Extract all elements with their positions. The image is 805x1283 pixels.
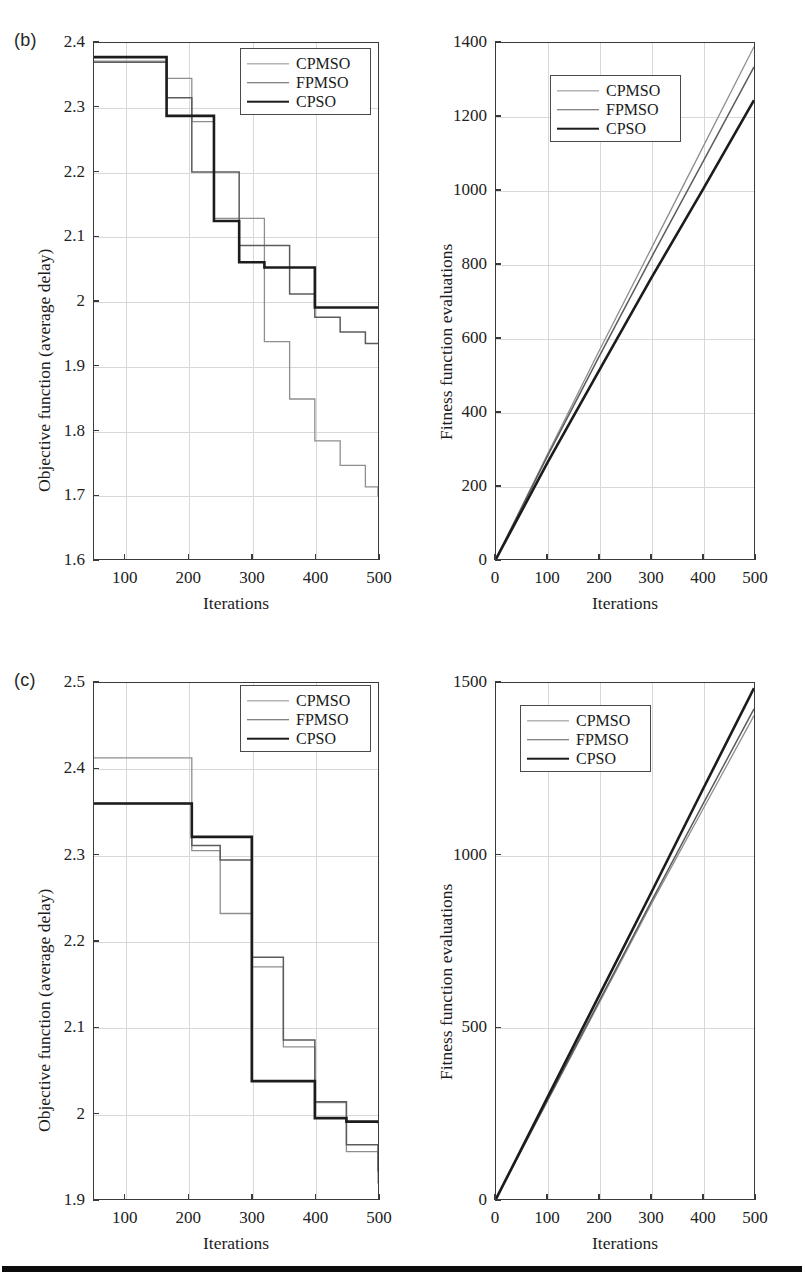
x-tick-label: 400 bbox=[303, 568, 329, 588]
y-tick-label: 2.3 bbox=[31, 845, 85, 865]
legend-item-fpmso[interactable]: FPMSO bbox=[247, 73, 362, 92]
y-tick-mark bbox=[93, 365, 99, 366]
legend-b-right[interactable]: CPMSOFPMSOCPSO bbox=[550, 75, 681, 142]
legend-line-swatch-icon bbox=[247, 695, 289, 707]
legend-label: FPMSO bbox=[576, 732, 628, 748]
legend-line-swatch-icon bbox=[247, 96, 289, 108]
legend-label: CPSO bbox=[576, 751, 616, 767]
series-line-cpso bbox=[496, 100, 754, 559]
y-axis-label-c-right: Fitness function evaluations bbox=[436, 884, 457, 1080]
x-tick-mark bbox=[188, 1194, 189, 1200]
x-tick-label: 200 bbox=[586, 568, 612, 588]
y-tick-mark bbox=[93, 681, 99, 682]
x-tick-mark bbox=[124, 1194, 125, 1200]
legend-label: CPSO bbox=[296, 731, 336, 747]
series-line-fpmso bbox=[94, 803, 378, 1171]
x-tick-label: 300 bbox=[239, 568, 265, 588]
legend-line-swatch-icon bbox=[247, 77, 289, 89]
y-tick-mark bbox=[495, 189, 501, 190]
y-tick-label: 1.6 bbox=[31, 550, 85, 570]
legend-label: FPMSO bbox=[296, 75, 348, 91]
legend-label: CPMSO bbox=[606, 83, 660, 99]
x-axis-label-c-left: Iterations bbox=[203, 1233, 269, 1254]
y-tick-mark bbox=[93, 559, 99, 560]
page-bottom-rule bbox=[2, 1266, 802, 1272]
x-tick-label: 100 bbox=[534, 1208, 560, 1228]
x-tick-mark bbox=[251, 554, 252, 560]
legend-item-cpso[interactable]: CPSO bbox=[247, 92, 362, 111]
x-tick-label: 100 bbox=[534, 568, 560, 588]
y-axis-label-c-left: Objective function (average delay) bbox=[34, 889, 55, 1132]
legend-line-swatch-icon bbox=[247, 58, 289, 70]
y-tick-mark bbox=[93, 940, 99, 941]
y-tick-mark bbox=[93, 495, 99, 496]
legend-item-fpmso[interactable]: FPMSO bbox=[247, 710, 362, 729]
y-tick-mark bbox=[93, 1027, 99, 1028]
y-tick-label: 1200 bbox=[433, 106, 487, 126]
y-tick-mark bbox=[93, 300, 99, 301]
y-tick-label: 2.3 bbox=[31, 97, 85, 117]
y-tick-mark bbox=[93, 171, 99, 172]
legend-item-cpmso[interactable]: CPMSO bbox=[247, 691, 362, 710]
x-tick-label: 300 bbox=[638, 568, 664, 588]
y-tick-label: 0 bbox=[433, 1190, 487, 1210]
x-tick-mark bbox=[650, 554, 651, 560]
y-tick-mark bbox=[93, 1113, 99, 1114]
legend-b-left[interactable]: CPMSOFPMSOCPSO bbox=[240, 48, 371, 115]
x-tick-mark bbox=[188, 554, 189, 560]
series-line-cpmso bbox=[94, 61, 378, 496]
legend-label: FPMSO bbox=[296, 712, 348, 728]
y-tick-mark bbox=[495, 263, 501, 264]
x-tick-mark bbox=[315, 1194, 316, 1200]
x-tick-mark bbox=[754, 1194, 755, 1200]
panel-b-right: 0200400600800100012001400010020030040050… bbox=[400, 0, 805, 620]
x-tick-label: 500 bbox=[366, 568, 392, 588]
legend-item-fpmso[interactable]: FPMSO bbox=[527, 730, 642, 749]
legend-c-left[interactable]: CPMSOFPMSOCPSO bbox=[240, 685, 371, 752]
y-tick-label: 2.2 bbox=[31, 162, 85, 182]
x-tick-label: 400 bbox=[690, 1208, 716, 1228]
legend-c-right[interactable]: CPMSOFPMSOCPSO bbox=[520, 705, 651, 772]
y-tick-mark bbox=[495, 41, 501, 42]
panel-c-left: (c) 1.922.12.22.32.42.5100200300400500 C… bbox=[0, 640, 400, 1260]
legend-item-cpso[interactable]: CPSO bbox=[247, 729, 362, 748]
legend-item-cpso[interactable]: CPSO bbox=[557, 119, 672, 138]
legend-label: CPSO bbox=[296, 94, 336, 110]
x-tick-mark bbox=[494, 1194, 495, 1200]
panel-c-right: 0500100015000100200300400500 CPMSOFPMSOC… bbox=[400, 640, 805, 1260]
y-tick-mark bbox=[495, 337, 501, 338]
y-tick-label: 1000 bbox=[433, 845, 487, 865]
figure-page: (b) 1.61.71.81.922.12.22.32.410020030040… bbox=[0, 0, 805, 1283]
legend-label: CPMSO bbox=[576, 713, 630, 729]
legend-line-swatch-icon bbox=[527, 734, 569, 746]
x-tick-label: 400 bbox=[303, 1208, 329, 1228]
x-axis-label-c-right: Iterations bbox=[592, 1233, 658, 1254]
y-axis-label-b-left: Objective function (average delay) bbox=[34, 249, 55, 492]
y-tick-label: 2.1 bbox=[31, 226, 85, 246]
series-lines-b-left bbox=[94, 43, 378, 559]
plot-area-b-left[interactable] bbox=[93, 42, 379, 560]
x-tick-label: 200 bbox=[586, 1208, 612, 1228]
x-tick-mark bbox=[494, 554, 495, 560]
legend-line-swatch-icon bbox=[557, 104, 599, 116]
legend-item-cpmso[interactable]: CPMSO bbox=[557, 81, 672, 100]
plot-area-c-left[interactable] bbox=[93, 682, 379, 1200]
x-tick-mark bbox=[702, 1194, 703, 1200]
x-tick-label: 500 bbox=[366, 1208, 392, 1228]
x-tick-label: 0 bbox=[491, 568, 500, 588]
legend-item-cpmso[interactable]: CPMSO bbox=[527, 711, 642, 730]
y-tick-label: 1000 bbox=[433, 180, 487, 200]
x-tick-label: 400 bbox=[690, 568, 716, 588]
series-line-cpmso bbox=[94, 758, 378, 1184]
legend-line-swatch-icon bbox=[527, 715, 569, 727]
legend-item-cpmso[interactable]: CPMSO bbox=[247, 54, 362, 73]
x-tick-mark bbox=[598, 1194, 599, 1200]
x-tick-mark bbox=[546, 1194, 547, 1200]
series-line-cpso bbox=[94, 803, 378, 1123]
y-tick-mark bbox=[495, 854, 501, 855]
legend-item-cpso[interactable]: CPSO bbox=[527, 749, 642, 768]
legend-item-fpmso[interactable]: FPMSO bbox=[557, 100, 672, 119]
y-tick-mark bbox=[495, 1027, 501, 1028]
x-tick-mark bbox=[315, 554, 316, 560]
x-tick-label: 300 bbox=[239, 1208, 265, 1228]
